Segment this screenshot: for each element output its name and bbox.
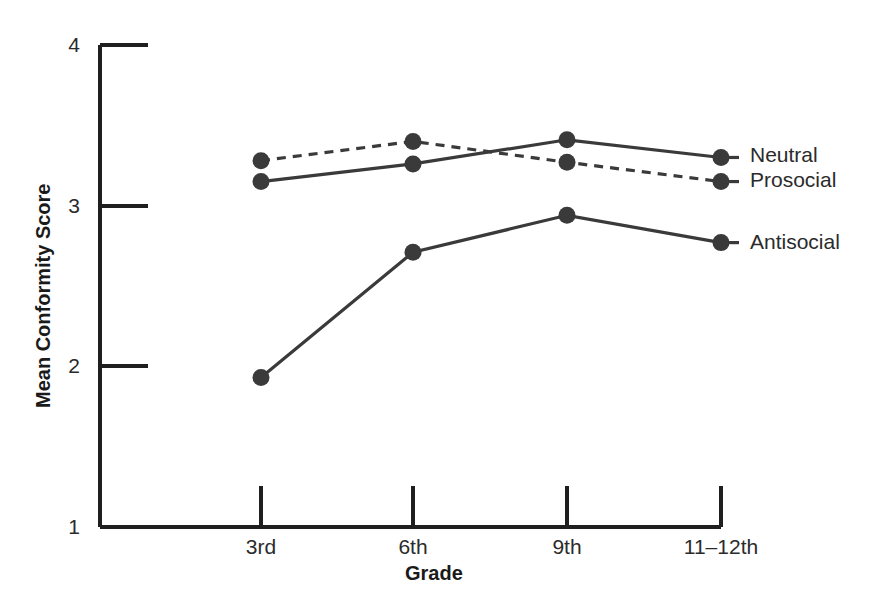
chart-figure: 4 3 2 1 3rd 6th 9th 11–12th Mean Conform… <box>0 0 870 614</box>
data-point-neutral-3rd <box>253 173 270 190</box>
y-tick-label-4: 4 <box>40 33 80 57</box>
series-prosocial <box>253 133 730 190</box>
x-tick-label-11-12th: 11–12th <box>661 535 781 559</box>
x-tick-label-9th: 9th <box>507 535 627 559</box>
series-layer <box>253 131 730 386</box>
series-line-neutral <box>261 140 721 182</box>
series-antisocial <box>253 207 730 386</box>
y-axis-title: Mean Conformity Score <box>32 184 55 408</box>
x-tick-label-3rd: 3rd <box>201 535 321 559</box>
data-point-prosocial-6th <box>405 133 422 150</box>
x-axis-title: Grade <box>405 562 463 585</box>
data-point-antisocial-9th <box>559 207 576 224</box>
y-tick-label-1: 1 <box>40 515 80 539</box>
data-point-prosocial-3rd <box>253 152 270 169</box>
series-neutral <box>253 131 730 190</box>
series-label-antisocial: Antisocial <box>750 230 840 254</box>
data-point-antisocial-3rd <box>253 369 270 386</box>
x-axis-ticks <box>261 486 721 527</box>
series-label-neutral: Neutral <box>750 143 818 167</box>
data-point-neutral-9th <box>559 131 576 148</box>
series-label-prosocial: Prosocial <box>750 168 836 192</box>
series-line-prosocial <box>261 141 721 181</box>
line-chart-plot <box>0 0 870 614</box>
y-axis-ticks <box>100 45 148 527</box>
axis-lines <box>100 45 721 527</box>
data-point-prosocial-9th <box>559 154 576 171</box>
series-line-antisocial <box>261 215 721 377</box>
data-point-antisocial-6th <box>405 244 422 261</box>
data-point-neutral-6th <box>405 155 422 172</box>
legend-leader-lines <box>721 157 739 242</box>
x-tick-label-6th: 6th <box>353 535 473 559</box>
